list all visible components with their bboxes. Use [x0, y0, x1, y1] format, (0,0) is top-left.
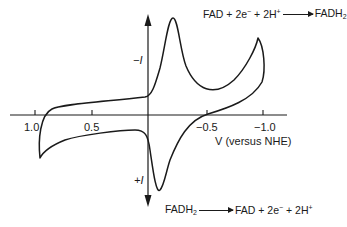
oxidation-equation: FADH2 FAD + 2e− + 2H+ [165, 204, 313, 216]
reduction-reactant: FAD + 2e− + 2H+ [203, 8, 281, 20]
cv-curve [39, 18, 264, 190]
reaction-arrow-icon [199, 210, 233, 211]
arrow-down-icon [145, 195, 152, 207]
x-tick-label-neg0.5: −0.5 [196, 122, 218, 133]
arrow-up-icon [145, 14, 152, 26]
y-axis-label-negative-current: −I [133, 55, 142, 66]
x-tick-label-0.5: 0.5 [84, 122, 99, 133]
oxidation-reactant: FADH2 [165, 204, 197, 216]
x-tick-label-neg1.0: −1.0 [254, 122, 276, 133]
x-tick-label-1.0: 1.0 [24, 122, 39, 133]
y-axis-label-positive-current: +I [134, 175, 143, 186]
reduction-equation: FAD + 2e− + 2H+ FADH2 [203, 8, 347, 20]
reaction-arrow-icon [283, 14, 313, 15]
reduction-product: FADH2 [315, 8, 347, 20]
oxidation-product: FAD + 2e− + 2H+ [235, 204, 313, 216]
x-axis-label: V (versus NHE) [215, 136, 291, 147]
